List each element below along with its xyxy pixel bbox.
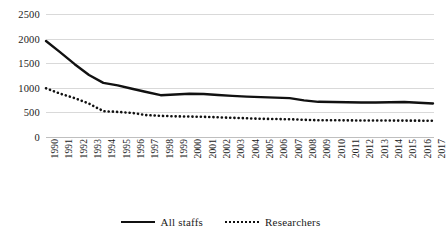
x-tick-label-1999: 1999: [179, 139, 189, 158]
y-tick-label-0: 0: [35, 132, 40, 143]
x-tick-label-1991: 1991: [64, 139, 74, 158]
legend-label: All staffs: [161, 216, 203, 228]
x-tick-label-1994: 1994: [107, 139, 117, 158]
x-tick-label-2009: 2009: [322, 139, 332, 158]
x-tick-label-2012: 2012: [365, 139, 375, 158]
x-tick-label-2017: 2017: [437, 139, 447, 158]
series-layer: [46, 14, 434, 137]
x-tick-label-2008: 2008: [308, 139, 318, 158]
gridline-0: [46, 137, 434, 138]
x-tick-label-1992: 1992: [79, 139, 89, 158]
x-tick-label-2005: 2005: [265, 139, 275, 158]
series-line-all-staffs: [46, 41, 433, 103]
y-tick-label-2500: 2500: [18, 9, 40, 20]
x-tick-label-2006: 2006: [279, 139, 289, 158]
x-tick-label-1996: 1996: [136, 139, 146, 158]
legend-swatch-solid-icon: [121, 221, 155, 223]
plot-area: [46, 14, 434, 137]
x-tick-label-2011: 2011: [351, 139, 361, 158]
x-tick-label-1990: 1990: [50, 139, 60, 158]
x-tick-label-2003: 2003: [236, 139, 246, 158]
legend-swatch-dotted-icon: [225, 221, 259, 223]
legend: All staffsResearchers: [0, 216, 441, 228]
legend-item-all-staffs[interactable]: All staffs: [121, 216, 203, 228]
x-axis: 1990199119921993199419951996199719981999…: [46, 139, 434, 195]
legend-item-researchers[interactable]: Researchers: [225, 216, 320, 228]
y-tick-label-500: 500: [24, 107, 40, 118]
x-tick-label-1998: 1998: [165, 139, 175, 158]
x-tick-label-2000: 2000: [193, 139, 203, 158]
x-tick-label-2007: 2007: [294, 139, 304, 158]
x-tick-label-2002: 2002: [222, 139, 232, 158]
x-tick-label-1993: 1993: [93, 139, 103, 158]
x-tick-label-1995: 1995: [122, 139, 132, 158]
y-tick-label-1000: 1000: [18, 82, 40, 93]
x-tick-label-2010: 2010: [337, 139, 347, 158]
x-tick-label-1997: 1997: [150, 139, 160, 158]
x-tick-label-2014: 2014: [394, 139, 404, 158]
series-line-researchers: [46, 88, 433, 120]
x-tick-label-2015: 2015: [408, 139, 418, 158]
y-tick-label-2000: 2000: [18, 33, 40, 44]
x-tick-label-2004: 2004: [251, 139, 261, 158]
x-tick-label-2016: 2016: [423, 139, 433, 158]
y-tick-label-1500: 1500: [18, 58, 40, 69]
legend-label: Researchers: [265, 216, 320, 228]
x-tick-label-2013: 2013: [380, 139, 390, 158]
y-axis: 05001000150020002500: [0, 0, 40, 234]
x-tick-label-2001: 2001: [208, 139, 218, 158]
